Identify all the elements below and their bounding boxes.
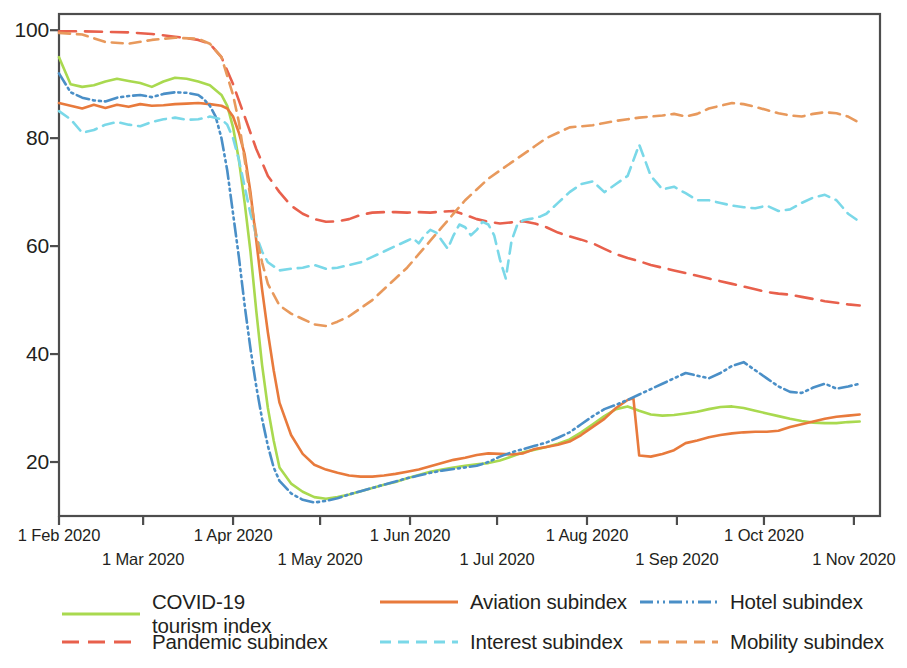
legend-item[interactable]: Aviation subindex xyxy=(380,590,627,614)
legend-swatch-line-icon xyxy=(62,607,140,621)
legend-swatch-line-icon xyxy=(380,635,458,649)
x-axis-tick-label: 1 Feb 2020 xyxy=(18,526,100,545)
legend-swatch-line-icon xyxy=(380,595,458,609)
legend-label: Aviation subindex xyxy=(470,590,627,614)
x-axis-tick-label: 1 Mar 2020 xyxy=(102,550,184,569)
series-line xyxy=(59,31,860,305)
legend-item[interactable]: Interest subindex xyxy=(380,630,623,654)
plot-frame xyxy=(59,14,880,516)
legend-label: Interest subindex xyxy=(470,630,623,654)
x-axis-tick-label: 1 Apr 2020 xyxy=(194,526,273,545)
chart-legend: COVID-19 tourism indexAviation subindexH… xyxy=(0,582,907,668)
legend-swatch-line-icon xyxy=(640,595,718,609)
legend-label: Hotel subindex xyxy=(730,590,863,614)
chart-figure: 10080604020 1 Feb 20201 Mar 20201 Apr 20… xyxy=(0,0,907,668)
series-line xyxy=(59,103,860,477)
legend-swatch-line-icon xyxy=(62,635,140,649)
plot-area: 10080604020 1 Feb 20201 Mar 20201 Apr 20… xyxy=(0,0,907,570)
legend-label: Pandemic subindex xyxy=(152,630,328,654)
x-axis-tick-label: 1 Jul 2020 xyxy=(459,550,534,569)
x-axis-tick-label: 1 Aug 2020 xyxy=(546,526,629,545)
x-axis-tick-label: 1 Nov 2020 xyxy=(812,550,895,569)
legend-swatch-line-icon xyxy=(640,635,718,649)
legend-item[interactable]: Mobility subindex xyxy=(640,630,884,654)
legend-label: Mobility subindex xyxy=(730,630,884,654)
x-axis-tick-label: 1 Jun 2020 xyxy=(370,526,451,545)
series-line xyxy=(59,73,860,502)
x-axis-tick-label: 1 Oct 2020 xyxy=(724,526,804,545)
series-line xyxy=(59,111,860,278)
legend-item[interactable]: Hotel subindex xyxy=(640,590,863,614)
x-axis-tick-label: 1 Sep 2020 xyxy=(635,550,718,569)
x-axis-tick-label: 1 May 2020 xyxy=(277,550,362,569)
chart-canvas xyxy=(0,0,907,570)
legend-item[interactable]: Pandemic subindex xyxy=(62,630,328,654)
